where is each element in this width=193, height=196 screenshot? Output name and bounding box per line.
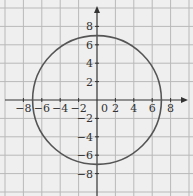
y-tick-label: −8 — [77, 168, 93, 181]
x-tick-label: 2 — [112, 102, 119, 115]
x-tick-label: −6 — [34, 102, 50, 115]
x-tick-label: 6 — [149, 102, 156, 115]
y-tick-label: 6 — [86, 39, 93, 52]
y-tick-label: −2 — [77, 112, 93, 125]
x-tick-label: −4 — [52, 102, 68, 115]
y-tick-label: 8 — [86, 20, 93, 33]
x-tick-label: 4 — [130, 102, 137, 115]
y-tick-label: −6 — [77, 149, 93, 162]
x-tick-label: 8 — [167, 102, 174, 115]
y-tick-label: −4 — [77, 131, 93, 144]
x-tick-label: 0 — [101, 102, 108, 115]
chart-container: −8−6−4−2024688642−2−4−6−8 — [0, 0, 193, 196]
y-tick-label: 2 — [86, 76, 93, 89]
x-tick-label: −8 — [15, 102, 31, 115]
coordinate-plane: −8−6−4−2024688642−2−4−6−8 — [0, 0, 193, 196]
y-tick-label: 4 — [86, 57, 93, 70]
